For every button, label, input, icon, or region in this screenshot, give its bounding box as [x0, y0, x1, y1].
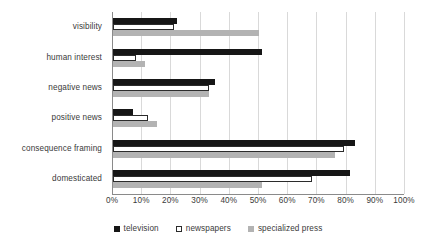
legend-label: television [124, 224, 159, 233]
x-tick-label: 50% [250, 196, 267, 205]
x-tick-label: 70% [308, 196, 325, 205]
legend-item[interactable]: newspapers [176, 224, 231, 233]
x-tick-label: 10% [133, 196, 150, 205]
grey-square-icon [248, 226, 254, 232]
gridline [375, 12, 376, 194]
legend-label: newspapers [186, 224, 231, 233]
bar-specialized [113, 152, 335, 158]
x-tick-label: 40% [220, 196, 237, 205]
bar-specialized [113, 30, 259, 36]
x-tick-label: 100% [393, 196, 414, 205]
y-tick-label: visibility [0, 22, 102, 32]
gridline [316, 12, 317, 194]
chart-legend: televisionnewspapersspecialized press [0, 224, 436, 233]
x-axis-tick-labels: 0%10%20%30%40%50%60%70%80%90%100% [112, 196, 404, 210]
y-tick-label: human interest [0, 53, 102, 63]
y-axis-category-labels: visibilityhuman interestnegative newspos… [0, 12, 108, 194]
legend-label: specialized press [258, 224, 323, 233]
bar-specialized [113, 91, 209, 97]
white-square-icon [176, 226, 182, 232]
gridline [200, 12, 201, 194]
gridline [258, 12, 259, 194]
x-tick-label: 20% [162, 196, 179, 205]
gridline [404, 12, 405, 194]
y-axis-line [112, 12, 113, 195]
x-tick-label: 0% [106, 196, 118, 205]
bar-specialized [113, 121, 157, 127]
bar-chart: visibilityhuman interestnegative newspos… [0, 0, 436, 250]
y-tick-label: negative news [0, 83, 102, 93]
x-axis-line [112, 194, 404, 195]
y-tick-label: positive news [0, 113, 102, 123]
x-tick-label: 30% [191, 196, 208, 205]
y-tick-label: consequence framing [0, 144, 102, 154]
x-tick-label: 80% [337, 196, 354, 205]
legend-item[interactable]: television [114, 224, 159, 233]
gridline [170, 12, 171, 194]
gridline [141, 12, 142, 194]
legend-item[interactable]: specialized press [248, 224, 323, 233]
plot-area [112, 12, 404, 194]
gridline [346, 12, 347, 194]
x-tick-label: 90% [366, 196, 383, 205]
gridline [287, 12, 288, 194]
gridline [229, 12, 230, 194]
y-tick-label: domesticated [0, 174, 102, 184]
black-square-icon [114, 226, 120, 232]
bar-specialized [113, 61, 145, 67]
bar-specialized [113, 182, 262, 188]
x-tick-label: 60% [279, 196, 296, 205]
